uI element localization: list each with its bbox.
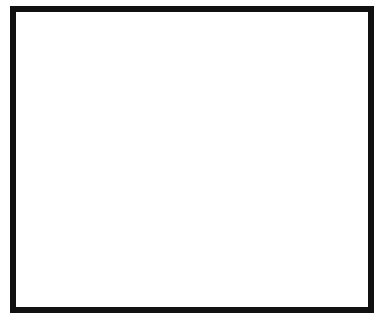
tubes-illustration	[0, 0, 379, 324]
